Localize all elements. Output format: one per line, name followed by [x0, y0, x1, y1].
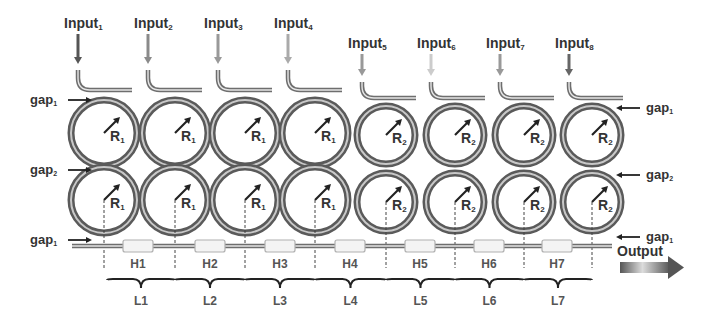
radius-label: R2 [392, 197, 407, 214]
microring-filter-diagram: Input1Input2Input3Input4Input5Input6Inpu… [0, 0, 706, 324]
ring-bottom-5: R2 [357, 173, 415, 268]
radius-label: R2 [598, 197, 613, 214]
heater-2: H2 [195, 240, 225, 271]
input-label-5-main: Input [348, 35, 383, 51]
gap-text-main: gap [646, 229, 669, 244]
brace-icon [386, 279, 455, 288]
input-port-6: Input6 [417, 35, 485, 98]
ring-bottom-4: R1 [282, 167, 348, 268]
input-label-3: Input3 [204, 15, 243, 32]
radius-label-sub: 1 [331, 136, 336, 145]
left-arrowhead [616, 105, 622, 111]
radius-label-sub: 1 [261, 203, 266, 212]
input-label-5: Input5 [348, 35, 387, 52]
drop-waveguide [148, 70, 202, 90]
heater-box [335, 240, 365, 252]
ring-top-2: R1 [142, 100, 208, 166]
length-label: L4 [343, 294, 357, 308]
length-brace-7: L7 [524, 279, 592, 308]
radius-label-sub: 2 [402, 205, 407, 214]
heater-5: H5 [405, 240, 435, 271]
ring-top-5: R2 [357, 106, 415, 164]
input-label-6-sub: 6 [451, 43, 456, 52]
input-label-1-main: Input [64, 15, 99, 31]
heater-box [123, 240, 153, 252]
length-label: L6 [482, 294, 496, 308]
down-arrow-icon [565, 69, 573, 76]
radius-label-main: R [598, 130, 608, 146]
radius-label: R1 [321, 128, 336, 145]
input-port-1: Input1 [64, 15, 132, 90]
heater-box [265, 240, 295, 252]
gap-text: gap1 [646, 229, 673, 244]
heater-box [195, 240, 225, 252]
radius-label-main: R [392, 130, 402, 146]
down-arrow-icon [284, 57, 292, 64]
ring-bottom-8: R2 [563, 173, 621, 268]
heater-label: H6 [481, 257, 497, 271]
input-port-8: Input8 [555, 35, 623, 98]
heater-3: H3 [265, 240, 295, 271]
radius-label-sub: 1 [191, 136, 196, 145]
length-brace-1: L1 [107, 279, 175, 308]
gap-label-right-3: gap1 [616, 229, 673, 244]
gap-text-main: gap [646, 100, 669, 115]
heater-label: H2 [202, 257, 218, 271]
length-brace-6: L6 [455, 279, 524, 308]
input-label-6: Input6 [417, 35, 456, 52]
drop-waveguide [569, 82, 623, 98]
left-arrowhead [616, 172, 622, 178]
heater-4: H4 [335, 240, 365, 271]
ring-bottom-7: R2 [495, 173, 553, 268]
input-label-3-sub: 3 [238, 23, 243, 32]
gap-text-sub: 1 [669, 108, 673, 115]
gap-label-right-2: gap2 [616, 167, 673, 182]
input-label-5-sub: 5 [382, 43, 387, 52]
heater-label: H1 [130, 257, 146, 271]
down-arrow-icon [144, 57, 152, 64]
input-label-7-main: Input [486, 35, 521, 51]
heater-box [542, 240, 572, 252]
input-label-4-sub: 4 [308, 23, 313, 32]
down-arrow-icon [214, 57, 222, 64]
radius-label: R1 [181, 128, 196, 145]
heater-box [474, 240, 504, 252]
input-label-8-main: Input [555, 35, 590, 51]
radius-label-sub: 2 [540, 138, 545, 147]
input-label-4: Input4 [274, 15, 313, 32]
input-label-7: Input7 [486, 35, 525, 52]
ring-top-7: R2 [495, 106, 553, 164]
brace-icon [315, 279, 386, 288]
length-label: L5 [413, 294, 427, 308]
heater-box [405, 240, 435, 252]
length-brace-4: L4 [315, 279, 386, 308]
radius-label-main: R [461, 130, 471, 146]
ring-bottom-6: R2 [426, 173, 484, 268]
gap-text-main: gap [30, 92, 53, 107]
ring-top-8: R2 [563, 106, 621, 164]
radius-label: R1 [251, 195, 266, 212]
right-arrowhead [86, 237, 92, 243]
radius-label: R1 [251, 128, 266, 145]
length-label: L7 [551, 294, 565, 308]
drop-waveguide [500, 82, 554, 98]
radius-label-main: R [461, 197, 471, 213]
drop-waveguide-core [288, 70, 342, 90]
input-label-1: Input1 [64, 15, 103, 32]
down-arrow-icon [427, 69, 435, 76]
output-label: Output [617, 243, 663, 259]
ring-top-3: R1 [212, 100, 278, 166]
radius-label-sub: 2 [608, 138, 613, 147]
length-brace-2: L2 [175, 279, 245, 308]
radius-label: R1 [181, 195, 196, 212]
input-port-7: Input7 [486, 35, 554, 98]
ring-bottom-3: R1 [212, 167, 278, 268]
down-arrow-icon [496, 69, 504, 76]
drop-waveguide [288, 70, 342, 90]
input-label-4-main: Input [274, 15, 309, 31]
length-label: L3 [273, 294, 287, 308]
ring-bottom-2: R1 [142, 167, 208, 268]
input-port-4: Input4 [274, 15, 342, 90]
radius-label: R2 [530, 130, 545, 147]
radius-label-main: R [530, 197, 540, 213]
